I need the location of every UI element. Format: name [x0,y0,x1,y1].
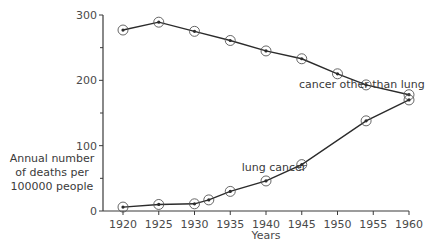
data-point-dot [407,98,410,101]
data-point-dot [365,119,368,122]
series-label-1: lung cancer [242,161,307,174]
x-tick-label: 1960 [395,218,423,231]
x-tick-label: 1955 [359,218,387,231]
data-point-dot [121,205,124,208]
x-tick-label: 1925 [145,218,173,231]
data-point-dot [207,198,210,201]
y-tick-label: 0 [90,205,97,218]
data-point-dot [264,179,267,182]
data-point-dot [336,72,339,75]
x-axis-label: Years [250,229,280,242]
x-tick-label: 1930 [181,218,209,231]
x-tick-label: 1920 [109,218,137,231]
data-point-dot [157,21,160,24]
series-group [118,17,414,212]
y-tick-label: 100 [76,140,97,153]
line-chart: 0100200300192019251930193519401945195019… [0,0,428,247]
x-tick-label: 1935 [216,218,244,231]
data-point-dot [229,39,232,42]
data-point-dot [300,57,303,60]
y-tick-label: 200 [76,74,97,87]
x-tick-label: 1945 [288,218,316,231]
x-tick-label: 1950 [324,218,352,231]
data-point-dot [229,190,232,193]
y-axis-label-line-3: 100000 people [2,180,102,194]
data-point-dot [193,202,196,205]
data-point-dot [157,203,160,206]
series-label-0: cancer other than lung [299,78,425,91]
y-axis-label-line-1: Annual number [2,152,102,166]
data-point-dot [264,49,267,52]
data-point-dot [121,28,124,31]
y-tick-label: 300 [76,9,97,22]
data-point-dot [193,30,196,33]
y-axis-label-line-2: of deaths per [2,166,102,180]
y-axis-label: Annual number of deaths per 100000 peopl… [2,152,102,194]
